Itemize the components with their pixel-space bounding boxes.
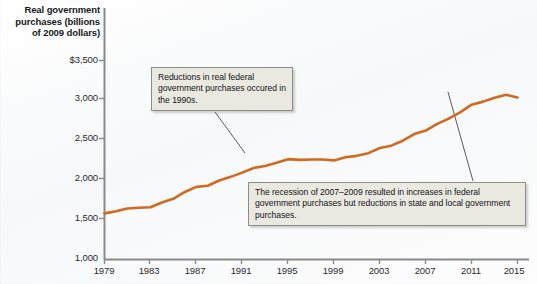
annotation-callout-1: Reductions in real federal government pu… <box>151 67 293 111</box>
leader-line-callout-1 <box>215 112 245 153</box>
chart-figure: Real government purchases (billions of 2… <box>0 0 537 284</box>
chart-plot-area <box>0 0 537 284</box>
annotation-callout-2: The recession of 2007–2009 resulted in i… <box>248 182 526 226</box>
